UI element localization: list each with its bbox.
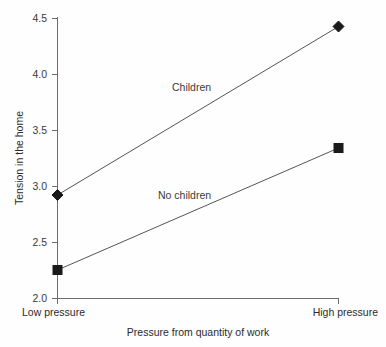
y-tick-label-4-5: 4.5 [32, 12, 47, 24]
y-tick-label-4-0: 4.0 [32, 68, 47, 80]
data-point-no-children-low [53, 266, 62, 275]
series-annotation-children: Children [172, 81, 211, 93]
x-axis-title: Pressure from quantity of work [127, 326, 270, 338]
y-tick-label-2-0: 2.0 [32, 292, 47, 304]
y-tick-label-3-5: 3.5 [32, 124, 47, 136]
chart-canvas: 2.0 2.5 3.0 3.5 4.0 4.5 Low pressure Hig… [0, 0, 386, 347]
x-category-label-high: High pressure [313, 306, 379, 318]
series-annotation-no-children: No children [158, 189, 211, 201]
data-point-children-high [333, 21, 344, 32]
y-axis-title: Tension in the home [13, 111, 25, 205]
x-category-label-low: Low pressure [22, 306, 85, 318]
y-tick-label-3-0: 3.0 [32, 180, 47, 192]
series-line-children [58, 27, 339, 196]
data-point-children-low [52, 190, 63, 201]
line-chart: 2.0 2.5 3.0 3.5 4.0 4.5 Low pressure Hig… [0, 0, 386, 347]
y-tick-label-2-5: 2.5 [32, 236, 47, 248]
data-point-no-children-high [334, 144, 343, 153]
series-line-no-children [58, 148, 339, 270]
